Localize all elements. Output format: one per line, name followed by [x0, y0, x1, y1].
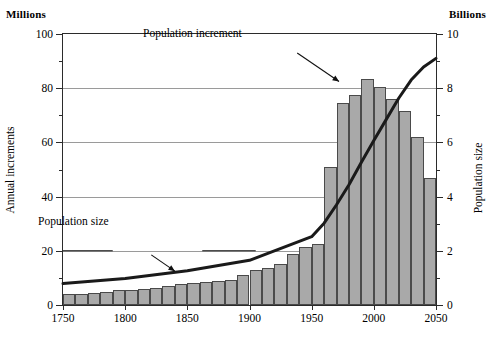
x-axis-tick-label: 2000: [362, 312, 385, 324]
x-axis-tick: [63, 305, 64, 310]
y-axis-tick: [56, 197, 63, 198]
right-axis-tick: [436, 197, 443, 198]
right-axis-tick: [436, 34, 443, 35]
x-axis-tick-label: 1900: [238, 312, 261, 324]
y-axis-tick-label: 60: [42, 136, 54, 148]
x-axis-tick-label: 1750: [52, 312, 75, 324]
x-axis-tick: [436, 305, 437, 310]
y-axis-tick-label: 100: [36, 28, 53, 40]
right-axis-tick-label: 10: [447, 28, 459, 40]
y-axis-tick-label: 20: [42, 245, 54, 257]
right-axis-tick-label: 6: [447, 136, 453, 148]
left-axis-title: Annual increments: [4, 126, 16, 213]
right-axis-title: Population size: [472, 143, 484, 214]
plot-area: 0204060801000246810175018001850190019502…: [62, 33, 437, 306]
x-axis-tick: [312, 305, 313, 310]
right-axis-minor-tick: [436, 61, 440, 62]
y-axis-tick-label: 40: [42, 191, 54, 203]
right-axis-tick-label: 4: [447, 191, 453, 203]
annotation-population-increment: Population increment: [143, 27, 242, 39]
x-axis-tick: [250, 305, 251, 310]
y-axis-tick-label: 80: [42, 82, 54, 94]
x-axis-tick-label: 1800: [114, 312, 137, 324]
y-axis-tick: [56, 142, 63, 143]
right-axis-tick-label: 8: [447, 82, 453, 94]
right-axis-minor-tick: [436, 278, 440, 279]
right-axis-minor-tick: [436, 170, 440, 171]
right-axis-minor-tick: [436, 224, 440, 225]
y-axis-tick: [56, 251, 63, 252]
y-axis-tick: [56, 34, 63, 35]
right-axis-tick: [436, 88, 443, 89]
x-axis-tick-label: 2050: [425, 312, 448, 324]
x-axis-tick-label: 1950: [300, 312, 323, 324]
annotation-arrows: [63, 34, 436, 305]
y-axis-tick: [56, 88, 63, 89]
right-axis-tick: [436, 142, 443, 143]
population-chart-figure: Millions Billions Annual increments Popu…: [0, 0, 492, 345]
right-axis-minor-tick: [436, 115, 440, 116]
right-axis-tick-label: 2: [447, 245, 453, 257]
annotation-population-size: Population size: [38, 215, 109, 227]
right-axis-tick: [436, 305, 443, 306]
arrow-population-size: [151, 255, 175, 271]
y-axis-tick-label: 0: [47, 299, 53, 311]
right-axis-tick: [436, 251, 443, 252]
x-axis-tick: [125, 305, 126, 310]
left-axis-unit-label: Millions: [6, 8, 46, 20]
right-axis-unit-label: Billions: [449, 8, 486, 20]
right-axis-tick-label: 0: [447, 299, 453, 311]
y-axis-tick: [56, 305, 63, 306]
x-axis-tick: [187, 305, 188, 310]
x-axis-tick: [374, 305, 375, 310]
arrow-population-increment: [297, 53, 339, 81]
x-axis-tick-label: 1850: [176, 312, 199, 324]
annotation-layer: [63, 34, 436, 305]
